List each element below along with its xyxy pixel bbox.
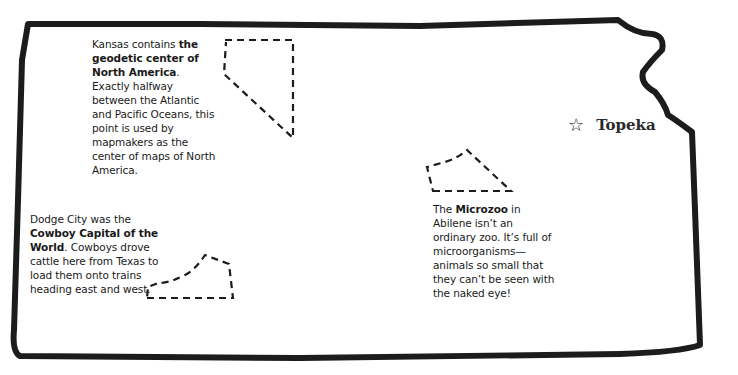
fact-text: Kansas contains: [92, 38, 179, 50]
fact-text: in Abilene isn’t an ordinary zoo. It’s f…: [433, 203, 554, 299]
fact-dodge-city: Dodge City was the Cowboy Capital of the…: [30, 212, 160, 296]
fact-microzoo: The Microzoo in Abilene isn’t an ordinar…: [433, 202, 558, 300]
region-geodetic-center[interactable]: [224, 40, 293, 138]
fact-text: . Exactly halfway between the Atlantic a…: [92, 66, 215, 176]
fact-text: The: [433, 203, 455, 215]
capital-label: Topeka: [596, 116, 656, 134]
fact-text: Dodge City was the: [30, 213, 131, 225]
star-outline-icon: ☆: [568, 115, 584, 135]
fact-geodetic-center: Kansas contains the geodetic center of N…: [92, 37, 220, 177]
capital-marker[interactable]: ☆ Topeka: [568, 115, 656, 135]
region-microzoo[interactable]: [427, 150, 511, 191]
fact-highlight: Microzoo: [455, 203, 507, 215]
